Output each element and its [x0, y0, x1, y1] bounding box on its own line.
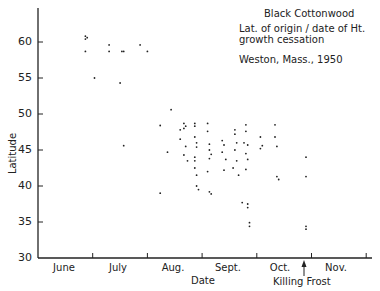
y-tick-label: 40 — [10, 179, 32, 192]
data-point — [260, 148, 262, 150]
x-axis-label: Date — [191, 275, 215, 286]
data-point — [196, 174, 198, 176]
data-point — [139, 44, 141, 46]
data-point — [147, 51, 149, 53]
data-point — [207, 171, 209, 173]
data-point — [245, 130, 247, 132]
data-point — [207, 123, 209, 125]
x-tick-label: Oct. — [270, 262, 290, 273]
data-point — [198, 189, 200, 191]
x-tick-label: Aug. — [162, 262, 185, 273]
data-point — [209, 158, 211, 160]
data-point — [196, 142, 198, 144]
data-point — [209, 143, 211, 145]
x-tick-label: July — [109, 262, 127, 273]
killing-frost-arrow-icon — [302, 260, 307, 276]
data-point — [305, 156, 307, 158]
data-point — [183, 154, 185, 156]
data-point — [225, 159, 227, 161]
data-point — [247, 203, 249, 205]
data-point — [234, 133, 236, 135]
data-point — [305, 228, 307, 230]
data-point — [123, 145, 125, 147]
chart-subtitle-line-2: growth cessation — [239, 34, 324, 46]
y-tick-label: 60 — [10, 35, 32, 48]
data-point — [274, 136, 276, 138]
chart-subtitle-line-3: Weston, Mass., 1950 — [239, 54, 343, 66]
data-point — [159, 192, 161, 194]
data-point — [194, 156, 196, 158]
data-point — [108, 44, 110, 46]
data-point — [194, 160, 196, 162]
data-point — [86, 37, 88, 39]
y-tick-label: 30 — [10, 251, 32, 264]
data-point — [209, 191, 211, 193]
data-point — [274, 124, 276, 126]
data-point — [210, 153, 212, 155]
data-point — [170, 109, 172, 111]
data-point — [249, 225, 251, 227]
data-point — [94, 77, 96, 79]
data-point — [194, 136, 196, 138]
data-point — [260, 136, 262, 138]
x-tick-label: June — [53, 262, 75, 273]
x-tick-label: Sept. — [215, 262, 241, 273]
chart-title: Black Cottonwood — [264, 8, 354, 19]
data-point — [232, 167, 234, 169]
x-tick-label: Nov. — [325, 262, 347, 273]
data-point — [196, 185, 198, 187]
data-point — [245, 169, 247, 171]
x-ticks — [93, 253, 367, 258]
data-point — [159, 125, 161, 127]
data-point — [241, 202, 243, 204]
data-point — [305, 176, 307, 178]
y-ticks — [38, 42, 43, 222]
data-point — [243, 142, 245, 144]
data-point — [261, 145, 263, 147]
data-point — [249, 222, 251, 224]
data-point — [185, 146, 187, 148]
data-point — [194, 167, 196, 169]
data-point — [236, 142, 238, 144]
data-point — [305, 225, 307, 227]
data-point — [276, 176, 278, 178]
data-point — [223, 169, 225, 171]
data-point — [183, 123, 185, 125]
data-point — [245, 153, 247, 155]
data-point — [179, 138, 181, 140]
data-point — [187, 160, 189, 162]
data-point — [123, 51, 125, 53]
data-point — [210, 193, 212, 195]
data-point — [278, 179, 280, 181]
data-point — [194, 125, 196, 127]
data-point — [223, 144, 225, 146]
y-tick-label: 45 — [10, 143, 32, 156]
data-point — [209, 149, 211, 151]
data-point — [119, 82, 121, 84]
data-point — [245, 124, 247, 126]
data-point — [238, 174, 240, 176]
data-point — [85, 51, 87, 53]
data-point — [85, 35, 87, 37]
data-point — [221, 151, 223, 153]
y-tick-label: 35 — [10, 215, 32, 228]
y-tick-label: 55 — [10, 71, 32, 84]
data-point — [196, 146, 198, 148]
data-point — [194, 123, 196, 125]
data-point — [179, 129, 181, 131]
killing-frost-annotation: Killing Frost — [273, 276, 331, 287]
data-point — [234, 149, 236, 151]
data-point — [121, 51, 123, 53]
data-point — [247, 159, 249, 161]
data-point — [221, 140, 223, 142]
data-point — [207, 130, 209, 132]
y-tick-label: 50 — [10, 107, 32, 120]
data-point — [234, 129, 236, 131]
data-point — [183, 127, 185, 129]
data-point — [247, 207, 249, 209]
data-point — [85, 38, 87, 40]
data-point — [167, 151, 169, 153]
data-point — [108, 51, 110, 53]
data-point — [276, 146, 278, 148]
data-point — [247, 144, 249, 146]
